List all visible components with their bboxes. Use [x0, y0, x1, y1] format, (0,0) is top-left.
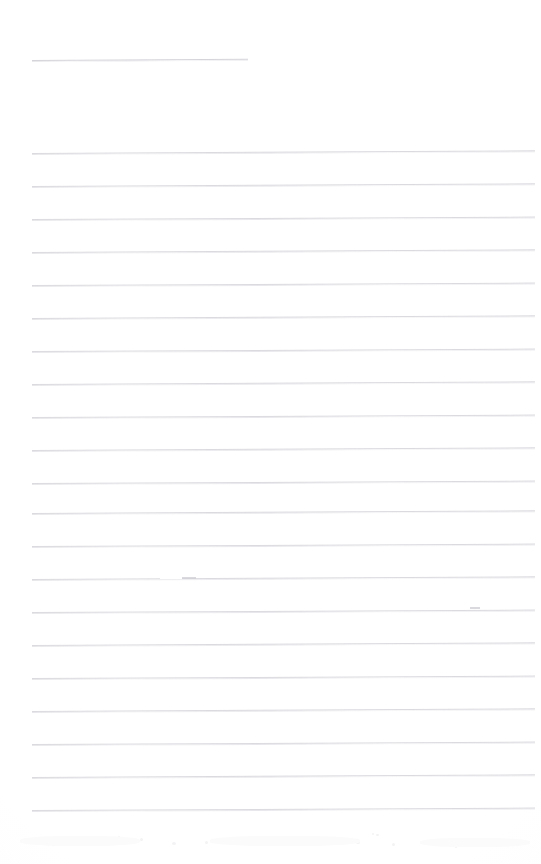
- scan-smudge: [20, 836, 140, 846]
- scan-speckle: [205, 841, 208, 844]
- scan-speckle: [318, 839, 321, 842]
- scan-smudge: [420, 838, 530, 847]
- ruled-line: [32, 217, 535, 220]
- ruled-line: [32, 183, 535, 187]
- scan-speckle: [372, 833, 374, 835]
- ruled-line: [32, 774, 535, 778]
- ruled-line: [32, 576, 535, 580]
- scan-speckle: [300, 836, 302, 838]
- scan-speckle: [96, 840, 101, 843]
- ruled-line: [32, 447, 535, 451]
- ruled-line: [32, 676, 535, 679]
- scan-speckle: [376, 834, 379, 836]
- scan-speckle: [140, 838, 143, 841]
- ruled-line: [32, 808, 535, 811]
- ruled-line: [32, 481, 535, 484]
- ruled-line: [32, 642, 535, 646]
- ruled-line: [32, 544, 535, 547]
- ruled-line: [32, 742, 535, 745]
- ruled-line: [32, 283, 535, 286]
- scan-speckle: [172, 842, 176, 845]
- scan-speckle: [28, 841, 31, 844]
- scan-smudge: [210, 836, 360, 846]
- ruled-line: [32, 415, 535, 418]
- page-sheet: [0, 0, 541, 864]
- scanned-page: [0, 0, 541, 864]
- ruled-line: [32, 315, 535, 319]
- ruled-line: [32, 349, 535, 352]
- ruled-line: [32, 708, 535, 712]
- rule-tick: [470, 607, 480, 609]
- scan-speckle: [470, 842, 474, 845]
- scan-speckle: [248, 840, 253, 843]
- scan-speckle: [356, 841, 360, 844]
- scan-speckle: [52, 843, 56, 846]
- ruled-line: [32, 510, 535, 514]
- scan-speckle: [392, 843, 395, 846]
- rule-break: [458, 607, 470, 609]
- scan-speckle: [508, 841, 511, 844]
- ruled-line: [32, 150, 535, 154]
- ruled-line: [32, 249, 535, 253]
- ruled-line: [32, 610, 535, 613]
- scan-speckle: [118, 836, 120, 838]
- header-rule: [32, 59, 248, 61]
- scan-speckle: [455, 846, 457, 848]
- scan-speckle: [436, 840, 439, 843]
- scan-speckle: [286, 842, 290, 845]
- ruled-line: [32, 381, 535, 385]
